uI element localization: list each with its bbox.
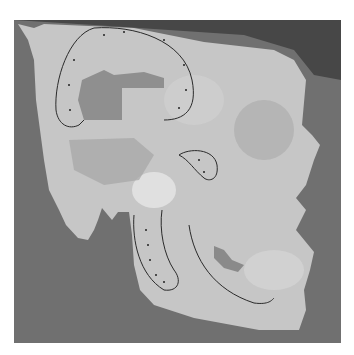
skull-model-photo (14, 20, 341, 343)
